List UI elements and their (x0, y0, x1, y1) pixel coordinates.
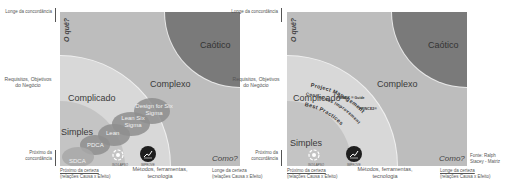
y-axis-bottom-text: Próximo da concordância (25, 150, 52, 161)
y-axis-mid-text: Requisitos, Objetivos do Negócio (5, 76, 52, 88)
agile-icon-caption: ISO/LAPSO (308, 163, 324, 166)
question-what: O quê? (63, 18, 70, 42)
left-y-axis-mid-label: Requisitos, Objetivos do Negócio (2, 76, 54, 88)
y-axis-arrow-up (281, 8, 282, 22)
y-axis-top-text: Longe da concordância (5, 9, 52, 14)
improve-icon (346, 146, 362, 162)
right-x-axis-left-label: Próximo da certeza (relações Causa x Efe… (287, 168, 338, 179)
y-axis-mid-text: Requisitos, Objetivos do Negócio (233, 76, 280, 88)
x-axis-right-sub: (relações Causa x Efeito) (440, 174, 491, 180)
left-y-axis-bottom-label: Próximo da concordância (4, 150, 52, 161)
stacey-matrix-right: O quê? Caótico Complexo Complicado Simpl… (287, 12, 467, 166)
x-axis-left-sub: (relações Causa x Efeito) (287, 174, 338, 180)
y-axis-arrow-up (55, 8, 56, 22)
label-prince2: PRINCE2® (359, 107, 377, 111)
label-complicado: Complicado (68, 93, 116, 103)
agile-icon (111, 148, 125, 162)
label-complexo: Complexo (150, 79, 191, 89)
right-y-axis-bottom-label: Próximo da concordância (230, 150, 278, 161)
x-axis-mid-text: Métodos, ferramentas, tecnologia (132, 166, 187, 179)
right-y-axis-top-label: Longe da concordância (230, 9, 278, 15)
label-caotico: Caótico (200, 40, 231, 50)
x-axis-right-sub: (relações Causa x Efeito) (212, 174, 263, 180)
right-y-axis-mid-label: Requisitos, Objetivos do Negócio (230, 76, 282, 88)
agile-icon (307, 148, 321, 162)
y-axis-arrow-down (281, 150, 282, 166)
left-x-axis-left-label: Próximo da certeza (relações Causa x Efe… (60, 168, 111, 179)
source-text: Fonte: Ralph Stacey - Matriz (470, 153, 500, 164)
question-how: Como? (439, 154, 465, 163)
label-pmbok: PMBOK ® Guide (337, 96, 364, 100)
method-lean: Lean (106, 130, 119, 136)
method-pdca: PDCA (87, 142, 104, 148)
arc-labels: Project Management Continuous Improvemen… (287, 12, 467, 166)
method-sdca: SDCA (69, 158, 86, 164)
y-axis-arrow-down (55, 150, 56, 166)
source-caption: Fonte: Ralph Stacey - Matriz (470, 153, 500, 164)
y-axis-bottom-text: Próximo da concordância (251, 150, 278, 161)
stacey-matrix-left: O quê? Caótico Complexo Complicado Simpl… (60, 12, 240, 166)
right-x-axis-mid-label: Métodos, ferramentas, tecnologia (350, 166, 420, 179)
improve-icon (140, 146, 156, 162)
right-x-axis-right-label: Longe da certeza (relações Causa x Efeit… (440, 168, 491, 179)
x-axis-left-sub: (relações Causa x Efeito) (60, 174, 111, 180)
x-axis-mid-text: Métodos, ferramentas, tecnologia (357, 166, 412, 179)
left-x-axis-right-label: Longe da certeza (relações Causa x Efeit… (212, 168, 263, 179)
y-axis-top-text: Longe da concordância (231, 9, 278, 14)
left-x-axis-mid-label: Métodos, ferramentas, tecnologia (125, 166, 195, 179)
method-lss: Lean Six Sigma (118, 115, 148, 129)
left-y-axis-top-label: Longe da concordância (4, 9, 52, 15)
